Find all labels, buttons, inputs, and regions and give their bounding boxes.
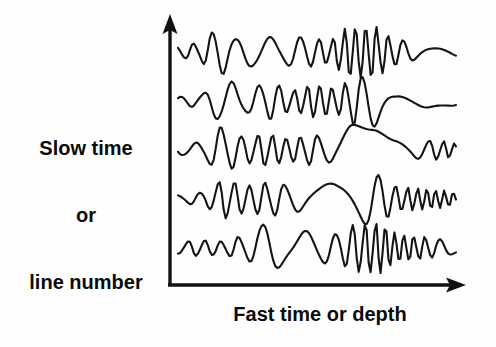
y-axis-label-line-2: or (8, 204, 164, 226)
x-axis-label: Fast time or depth (170, 303, 470, 325)
trace-group (178, 27, 456, 273)
figure-root: Slow time or line number Fast time or de… (0, 0, 496, 347)
wiggle-trace (178, 27, 456, 78)
y-axis-label-line-3: line number (8, 271, 164, 293)
y-axis-label: Slow time or line number (8, 92, 164, 338)
wiggle-trace (178, 175, 456, 224)
wiggle-trace (178, 224, 456, 273)
wiggle-trace (178, 77, 456, 126)
wiggle-trace (178, 125, 456, 169)
y-axis-label-line-1: Slow time (8, 137, 164, 159)
